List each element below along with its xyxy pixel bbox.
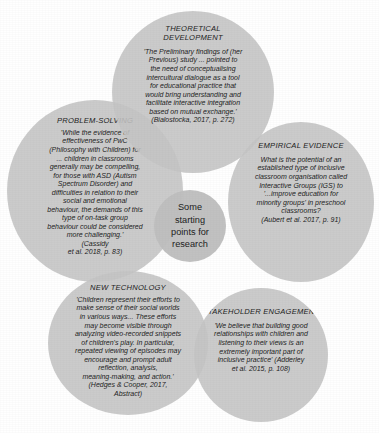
center-label: Some starting points for research <box>171 201 209 251</box>
bubble-new-technology: NEW TECHNOLOGY 'Children represent their… <box>48 271 208 415</box>
bubble-center-research-focus: Some starting points for research <box>154 190 226 262</box>
bubble-stakeholder-engagement-quote: 'We believe that building good relations… <box>198 322 324 373</box>
bubble-empirical-evidence-heading: EMPIRICAL EVIDENCE <box>258 142 343 151</box>
bubble-theoretical-development: THEORETICAL DEVELOPMENT 'The Preliminary… <box>112 11 274 173</box>
bubble-new-technology-heading: NEW TECHNOLOGY <box>90 284 166 293</box>
bubble-theoretical-development-heading: THEORETICAL DEVELOPMENT <box>163 25 223 43</box>
bubble-stakeholder-engagement-heading: STAKEHOLDER ENGAGEMENT <box>203 308 320 317</box>
bubble-empirical-evidence-quote: What is the potential of an established … <box>233 156 369 224</box>
bubble-new-technology-quote: 'Children represent their efforts to mak… <box>52 296 204 398</box>
bubble-theoretical-development-quote: 'The Preliminary findings of (her Previo… <box>117 48 269 125</box>
bubble-stakeholder-engagement: STAKEHOLDER ENGAGEMENT 'We believe that … <box>194 288 328 422</box>
research-starting-points-diagram: PROBLEM-SOLVING 'While the evidence of e… <box>0 0 379 433</box>
